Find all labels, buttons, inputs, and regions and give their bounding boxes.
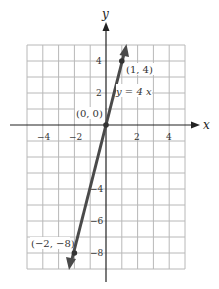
point-label-neg2-neg8: (−2, −8) [31,238,75,249]
tick-x-neg2: −2 [69,132,82,142]
x-axis-arrow-icon [191,122,200,129]
y-axis-label: y [101,7,109,21]
point-1-4 [119,58,125,64]
tick-y-2: 2 [96,88,102,98]
point-label-1-4: (1, 4) [126,64,153,75]
tick-x-2: 2 [134,132,140,142]
point-neg2-neg8 [72,250,78,256]
point-0-0 [103,122,109,128]
tick-y-neg8: −8 [90,248,104,258]
equation-label: y = 4 x [115,86,152,97]
coordinate-plane: x y −4 −2 2 4 4 2 −4 −6 −8 (1, 4) y = 4 … [0,0,219,289]
y-axis-arrow-icon [103,22,110,31]
tick-x-neg4: −4 [37,132,51,142]
tick-y-4: 4 [96,56,102,66]
line-top-arrow-icon [120,44,130,57]
tick-x-4: 4 [166,132,172,142]
x-axis-label: x [203,118,210,132]
tick-y-neg6: −6 [90,216,104,226]
point-label-0-0: (0, 0) [76,108,103,119]
